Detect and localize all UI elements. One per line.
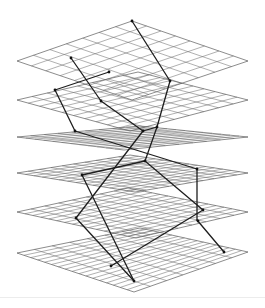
grid-line	[31, 209, 150, 235]
path-node	[142, 130, 145, 133]
grid-line	[74, 86, 194, 116]
path-node	[108, 71, 111, 74]
grid-line	[52, 246, 166, 281]
path-segment	[55, 90, 75, 131]
grid-line	[17, 21, 132, 61]
grid-line	[104, 206, 216, 231]
path-node	[54, 89, 57, 92]
path-node	[169, 80, 172, 83]
grid-line	[87, 239, 199, 269]
stacked-grid-planes-diagram	[0, 0, 265, 308]
grid-line	[134, 252, 248, 292]
path-node	[131, 20, 134, 23]
path-node	[110, 265, 113, 268]
grid-plane-6	[17, 228, 248, 292]
grid-line	[84, 165, 197, 184]
grid-planes	[17, 21, 248, 292]
grid-line	[120, 249, 235, 287]
grid-line	[46, 31, 161, 71]
grid-line	[31, 26, 146, 66]
path-node	[81, 174, 84, 177]
grid-plane-4	[17, 155, 248, 192]
grid-line	[127, 172, 240, 191]
path-node	[197, 220, 200, 223]
grid-line	[103, 51, 219, 90]
path-node	[202, 209, 205, 212]
grid-line	[96, 92, 215, 122]
path-node	[74, 130, 77, 133]
bottom-divider	[0, 297, 265, 298]
path-node	[156, 126, 159, 129]
path-node	[133, 280, 136, 283]
grid-line	[75, 41, 191, 81]
grid-line	[106, 246, 222, 282]
grid-plane-5	[17, 188, 248, 238]
path-node	[144, 160, 147, 163]
grid-line	[135, 173, 248, 192]
grid-line	[62, 83, 182, 112]
path-node	[70, 57, 73, 60]
grid-line	[136, 212, 248, 238]
grid-line	[60, 36, 175, 76]
path-node	[223, 251, 226, 254]
grid-line	[127, 251, 242, 290]
grid-plane-1	[17, 21, 248, 100]
grid-line	[88, 202, 200, 227]
grid-line	[107, 94, 226, 124]
path-node	[100, 100, 103, 103]
grid-line	[120, 209, 232, 235]
grid-line	[132, 61, 248, 100]
grid-plane-2	[17, 72, 248, 131]
grid-line	[17, 212, 136, 238]
path-segment	[197, 220, 224, 252]
path-node	[75, 217, 78, 220]
grid-line	[70, 242, 183, 275]
grid-line	[112, 207, 224, 233]
path-node	[196, 168, 199, 171]
grid-plane-3	[17, 126, 248, 150]
